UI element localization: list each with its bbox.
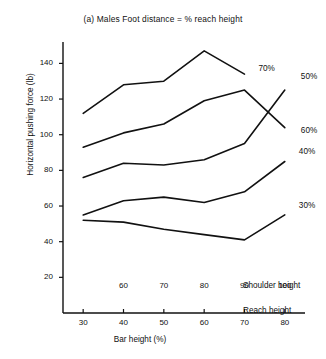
series-line-70pct <box>83 51 244 113</box>
series-line-50pct <box>83 90 285 177</box>
series-line-60pct <box>83 90 285 147</box>
series-line-30pct <box>83 215 285 240</box>
plot-area <box>0 0 326 359</box>
series-lines <box>83 51 285 240</box>
axes-group <box>63 42 305 313</box>
series-line-40pct <box>83 162 285 215</box>
chart-figure: (a) Males Foot distance = % reach height… <box>0 0 326 359</box>
